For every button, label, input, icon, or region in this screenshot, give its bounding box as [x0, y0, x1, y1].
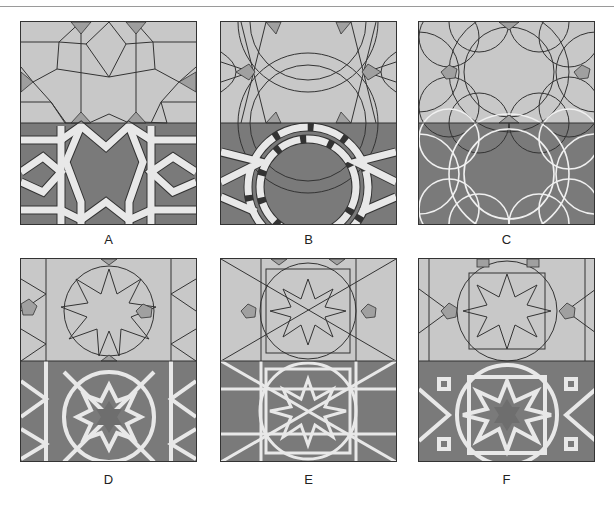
pattern-f-figure: [419, 259, 595, 462]
panel-f: [418, 258, 595, 462]
panel-d: [20, 258, 197, 462]
panel-a: [20, 21, 197, 225]
panel-label-d: D: [20, 472, 197, 487]
panel-b: [220, 21, 397, 225]
pattern-b-figure: [221, 22, 396, 224]
panel-label-f: F: [418, 472, 595, 487]
panel-c: [418, 21, 595, 225]
pattern-c-figure: [419, 22, 595, 224]
top-rule: [0, 6, 614, 7]
panel-label-e: E: [220, 472, 397, 487]
pattern-a-figure: [21, 22, 196, 224]
pattern-e-figure: [221, 259, 396, 462]
pattern-d-figure: [21, 259, 196, 462]
panel-label-c: C: [418, 232, 595, 247]
panel-label-a: A: [20, 232, 197, 247]
panel-e: [220, 258, 397, 462]
panel-label-b: B: [220, 232, 397, 247]
